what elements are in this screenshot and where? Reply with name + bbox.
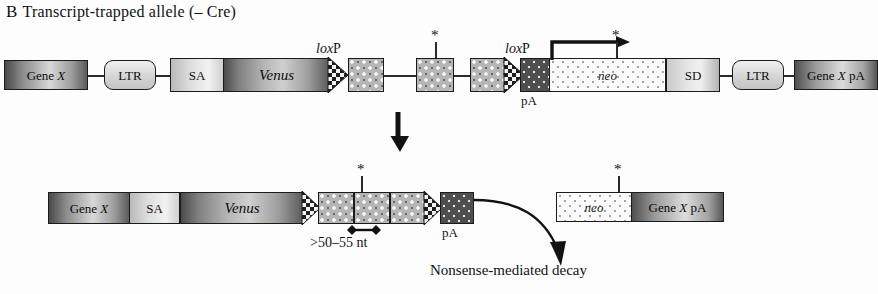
- top-gene-x-box[interactable]: Gene X: [4, 60, 88, 90]
- bottom-left-construct: Gene X SA Venus *: [0, 180, 540, 260]
- top-neo-label: neo: [598, 69, 617, 82]
- right-gene-x-pa-label: Gene X pA: [649, 201, 707, 214]
- bottom-venus-label: Venus: [225, 201, 260, 216]
- outcome-caption: Nonsense-mediated decay: [430, 262, 587, 279]
- top-ltr-right-label: LTR: [746, 69, 769, 82]
- top-gene-x-label: Gene X: [27, 69, 66, 82]
- bottom-stop-codon-marker: *: [357, 162, 365, 177]
- panel-title-text: Transcript-trapped allele (– Cre): [23, 3, 237, 20]
- stop-codon-marker-1: *: [431, 28, 439, 43]
- bottom-exon-box-3[interactable]: [390, 192, 426, 224]
- page-title: BTranscript-trapped allele (– Cre): [6, 2, 236, 22]
- bottom-pa-box[interactable]: [440, 192, 474, 224]
- panel-letter: B: [6, 2, 23, 21]
- connector-line: [88, 75, 104, 77]
- stop-codon-marker-2: *: [612, 28, 620, 43]
- top-sa-box[interactable]: SA: [170, 58, 224, 92]
- distance-label: >50–55 nt: [310, 236, 367, 250]
- right-neo-box[interactable]: neo: [556, 192, 632, 222]
- bottom-sa-box[interactable]: SA: [130, 192, 180, 224]
- top-venus-label: Venus: [259, 68, 294, 83]
- down-arrow-icon: [388, 112, 414, 154]
- loxp-site-marker-1[interactable]: [328, 57, 350, 93]
- bottom-exon-box-1[interactable]: [318, 192, 354, 224]
- bottom-gene-x-label: Gene X: [70, 202, 109, 215]
- top-sa-label: SA: [189, 69, 206, 82]
- top-pa-label: pA: [521, 94, 537, 107]
- right-gene-x-pa-box[interactable]: Gene X pA: [632, 192, 724, 222]
- stop-codon-stem-2: [616, 42, 618, 58]
- top-gene-x-pa-box[interactable]: Gene X pA: [794, 60, 878, 90]
- right-neo-label: neo: [585, 201, 604, 214]
- bottom-pa-label: pA: [442, 226, 458, 239]
- top-ltr-left-label: LTR: [118, 69, 141, 82]
- top-ltr-right-box[interactable]: LTR: [732, 60, 784, 90]
- top-venus-box[interactable]: Venus: [224, 58, 330, 92]
- connector-line: [784, 75, 794, 77]
- loxp-label-1: loxP: [316, 42, 341, 56]
- top-sd-box[interactable]: SD: [666, 58, 720, 92]
- loxp-label-2: loxP: [505, 42, 530, 56]
- right-stop-codon-stem: [618, 176, 620, 192]
- top-ltr-left-box[interactable]: LTR: [104, 60, 156, 90]
- top-exon-box-3[interactable]: [470, 58, 506, 92]
- bottom-venus-box[interactable]: Venus: [180, 192, 304, 224]
- bottom-exon-box-2[interactable]: [354, 192, 390, 224]
- top-pa-box[interactable]: [520, 58, 550, 92]
- connector-line: [156, 75, 170, 77]
- top-exon-box-1[interactable]: [348, 58, 384, 92]
- connector-line: [384, 75, 416, 77]
- bottom-gene-x-box[interactable]: Gene X: [48, 192, 130, 224]
- top-gene-x-pa-label: Gene X pA: [807, 69, 865, 82]
- promoter-arrow-icon: [548, 34, 638, 64]
- connector-line: [720, 75, 732, 77]
- bottom-stop-codon-stem: [361, 176, 363, 192]
- bottom-right-construct: * neo Gene X pA: [540, 180, 824, 250]
- right-stop-codon-marker: *: [614, 162, 622, 177]
- stop-codon-stem-1: [435, 42, 437, 58]
- top-construct: Gene X LTR SA Venus: [0, 40, 824, 110]
- bottom-sa-label: SA: [146, 202, 163, 215]
- top-sd-label: SD: [685, 69, 702, 82]
- connector-line: [454, 75, 470, 77]
- top-exon-box-2[interactable]: [416, 58, 454, 92]
